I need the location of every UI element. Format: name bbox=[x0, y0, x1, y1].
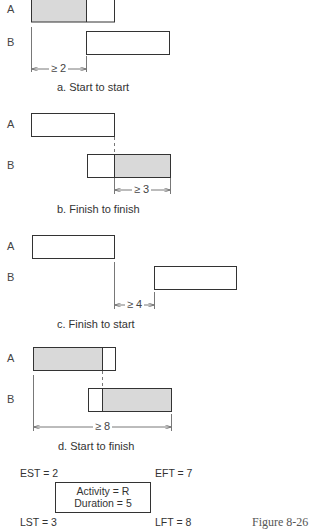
row-label-a: A bbox=[7, 3, 14, 15]
caption-finish-to-start: c. Finish to start bbox=[57, 318, 135, 330]
dimension-label: ≥ 4 bbox=[125, 298, 144, 310]
duration-label: Duration = 5 bbox=[56, 497, 150, 509]
bar-a bbox=[33, 236, 115, 259]
caption-start-to-start: a. Start to start bbox=[57, 81, 129, 93]
row-label-a: A bbox=[7, 240, 14, 252]
row-label-b: B bbox=[7, 159, 14, 171]
lst-label: LST = 3 bbox=[20, 516, 57, 528]
activity-label: Activity = R bbox=[56, 485, 150, 497]
diagram-canvas bbox=[0, 0, 316, 532]
lft-label: LFT = 8 bbox=[155, 516, 191, 528]
bar-b bbox=[87, 32, 170, 55]
bar-b bbox=[155, 267, 237, 290]
bar-a-shaded bbox=[34, 348, 103, 371]
row-label-b: B bbox=[7, 393, 14, 405]
row-label-b: B bbox=[7, 36, 14, 48]
eft-label: EFT = 7 bbox=[155, 467, 192, 479]
caption-start-to-finish: d. Start to finish bbox=[58, 440, 134, 452]
bar-b-shaded bbox=[103, 389, 172, 412]
row-label-b: B bbox=[7, 271, 14, 283]
bar-b-shaded bbox=[115, 155, 171, 178]
dimension-label: ≥ 8 bbox=[93, 420, 112, 432]
row-label-a: A bbox=[7, 118, 14, 130]
bar-a-shaded bbox=[32, 0, 87, 22]
bar-a bbox=[32, 114, 115, 137]
est-label: EST = 2 bbox=[20, 467, 58, 479]
diagram-start-to-finish bbox=[34, 348, 172, 432]
dimension-label: ≥ 2 bbox=[49, 62, 68, 74]
diagram-finish-to-finish bbox=[32, 114, 171, 195]
dimension-label: ≥ 3 bbox=[132, 183, 151, 195]
row-label-a: A bbox=[7, 352, 14, 364]
figure-label: Figure 8-26 bbox=[252, 515, 308, 530]
caption-finish-to-finish: b. Finish to finish bbox=[57, 203, 140, 215]
